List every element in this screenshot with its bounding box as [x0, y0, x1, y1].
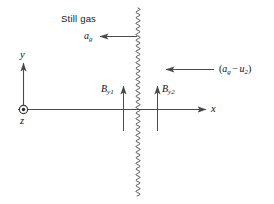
- diagram-svg: [0, 0, 274, 204]
- by2-label: By2: [162, 84, 175, 94]
- still-gas-label: Still gas: [61, 14, 96, 24]
- by1-subscript: y1: [107, 88, 114, 96]
- z-axis-label: z: [20, 116, 24, 127]
- relative-velocity-first-subscript: g: [227, 68, 231, 76]
- z-axis-dot-icon: [22, 108, 25, 111]
- gas-velocity-label: ag: [84, 31, 93, 41]
- by2-subscript: y2: [168, 88, 175, 96]
- relative-velocity-second-subscript: 2: [244, 68, 248, 76]
- relative-velocity-label: (ag−u2): [219, 64, 251, 74]
- gas-velocity-subscript: g: [89, 35, 93, 43]
- x-axis-label: x: [211, 104, 216, 115]
- y-axis-label: y: [20, 50, 25, 61]
- figure-canvas: Still gas ag (ag−u2) By1 By2 y x z: [0, 0, 274, 204]
- by1-label: By1: [101, 84, 114, 94]
- relative-velocity-close-paren: ): [248, 63, 251, 74]
